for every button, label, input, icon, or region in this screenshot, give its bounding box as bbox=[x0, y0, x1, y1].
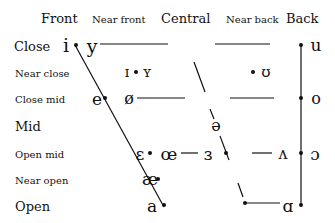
vowel-reversed-epsilon: ɜ bbox=[204, 146, 213, 163]
vowel-near-close-back-rounded: ʊ bbox=[261, 65, 270, 80]
vowel-o-slash: ø bbox=[124, 91, 134, 107]
vowel-script-a: ɑ bbox=[283, 198, 294, 215]
vowel-a: a bbox=[147, 198, 157, 215]
vowel-i: i bbox=[63, 36, 69, 55]
vowel-e: e bbox=[92, 91, 102, 108]
vowel-oe-ligature: œ bbox=[161, 146, 178, 163]
vowel-open-e: ɛ bbox=[136, 146, 145, 163]
vowel-ash: æ bbox=[142, 171, 158, 188]
vowel-trapezoid bbox=[0, 0, 335, 223]
vowel-near-close-front-rounded: ʏ bbox=[142, 65, 151, 79]
vowel-u: u bbox=[311, 37, 322, 54]
vowel-open-o: ɔ bbox=[310, 146, 320, 163]
vowel-schwa: ə bbox=[211, 118, 220, 134]
vowel-o: o bbox=[311, 91, 321, 107]
vowel-wedge: ʌ bbox=[278, 146, 287, 162]
vowel-near-close-front-unrounded: ɪ bbox=[125, 65, 129, 79]
vowel-y: y bbox=[87, 37, 98, 56]
